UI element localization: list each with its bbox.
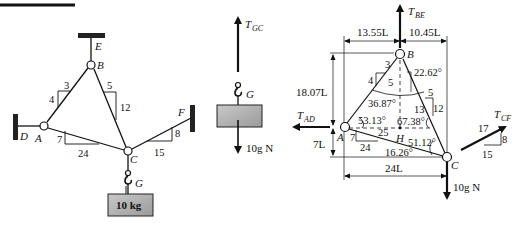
T-BE-subscript: BE xyxy=(415,11,425,20)
T-CF-label: T xyxy=(494,108,501,120)
hook-G xyxy=(125,176,131,184)
slope-CF-rise: 8 xyxy=(175,128,180,139)
wall-D xyxy=(13,114,18,140)
label-B: B xyxy=(97,59,104,71)
tri-BC-12: 12 xyxy=(433,103,444,114)
T-AD-subscript: AD xyxy=(303,115,315,124)
mass-label: 10 kg xyxy=(116,199,142,211)
dim-right-top: 10.45L xyxy=(409,26,441,38)
angle-67-38: 67.38° xyxy=(397,116,425,127)
tri-AC-24: 24 xyxy=(360,142,371,153)
weight-label-fbd: 10g N xyxy=(246,142,273,154)
T-GC-subscript: GC xyxy=(252,24,264,33)
label-E: E xyxy=(94,40,102,52)
label-H: H xyxy=(395,132,405,144)
slope-AC-run: 24 xyxy=(78,148,89,159)
figure-canvas: E D F 3 4 5 12 7 24 8 15 B A C xyxy=(0,0,516,226)
T-GC-label: T xyxy=(245,18,252,30)
slope-CF-run: 15 xyxy=(154,147,165,158)
member-CF xyxy=(132,118,191,149)
dim-height-A: 7L xyxy=(313,138,326,150)
ring-A xyxy=(40,122,48,130)
tri-AB-5: 5 xyxy=(388,77,393,88)
slope-AB-rise: 4 xyxy=(49,94,55,105)
label-C: C xyxy=(130,153,138,165)
label-A: A xyxy=(34,132,42,144)
fbd-label-B: B xyxy=(407,48,414,60)
tri-AB-3: 3 xyxy=(385,59,390,70)
tri-BC-13: 13 xyxy=(414,104,425,115)
dim-width-AC: 24L xyxy=(385,162,403,174)
fbd-label-A: A xyxy=(336,131,344,143)
right-fbd: T BE 13.55L 10.45L 18.07L 7L 24L H 3 4 xyxy=(294,5,511,198)
tri-AB-4: 4 xyxy=(368,75,374,86)
middle-fbd: T GC G 10g N xyxy=(217,18,273,154)
label-F: F xyxy=(177,106,185,118)
T-AD-label: T xyxy=(297,109,304,121)
dim-left-top: 13.55L xyxy=(357,26,389,38)
label-G: G xyxy=(135,177,143,189)
ceiling-support xyxy=(78,33,105,38)
slope-AB-run: 3 xyxy=(64,80,69,91)
tri-AC-25: 25 xyxy=(378,127,389,138)
label-D: D xyxy=(19,130,28,142)
left-diagram: E D F 3 4 5 12 7 24 8 15 B A C xyxy=(13,33,195,216)
tri-AC-7: 7 xyxy=(350,132,355,143)
slope-BC-run: 5 xyxy=(107,80,112,91)
hook-G-fbd xyxy=(235,88,241,96)
tri-CF-17: 17 xyxy=(478,123,489,134)
dim-height-B: 18.07L xyxy=(296,86,328,98)
T-CF-subscript: CF xyxy=(501,114,511,123)
fbd-ring-B xyxy=(396,50,405,59)
fbd-weight-label: 10g N xyxy=(453,181,480,193)
angle-36-87: 36.87° xyxy=(368,98,396,109)
slope-AC-rise: 7 xyxy=(57,134,62,145)
mass-box-fbd xyxy=(217,105,262,127)
tri-CF-8: 8 xyxy=(502,134,507,145)
angle-53-13: 53.13° xyxy=(358,115,386,126)
statics-figure: E D F 3 4 5 12 7 24 8 15 B A C xyxy=(0,0,516,226)
fbd-label-C: C xyxy=(451,159,459,171)
angle-22-62: 22.62° xyxy=(414,67,442,78)
slope-BC-rise: 12 xyxy=(120,102,131,113)
label-G-fbd: G xyxy=(246,88,254,100)
T-BE-label: T xyxy=(408,5,415,17)
ring-B xyxy=(87,61,95,69)
tri-BC-5: 5 xyxy=(428,87,433,98)
tri-CF-15: 15 xyxy=(482,149,493,160)
angle-16-26: 16.26° xyxy=(385,147,413,158)
